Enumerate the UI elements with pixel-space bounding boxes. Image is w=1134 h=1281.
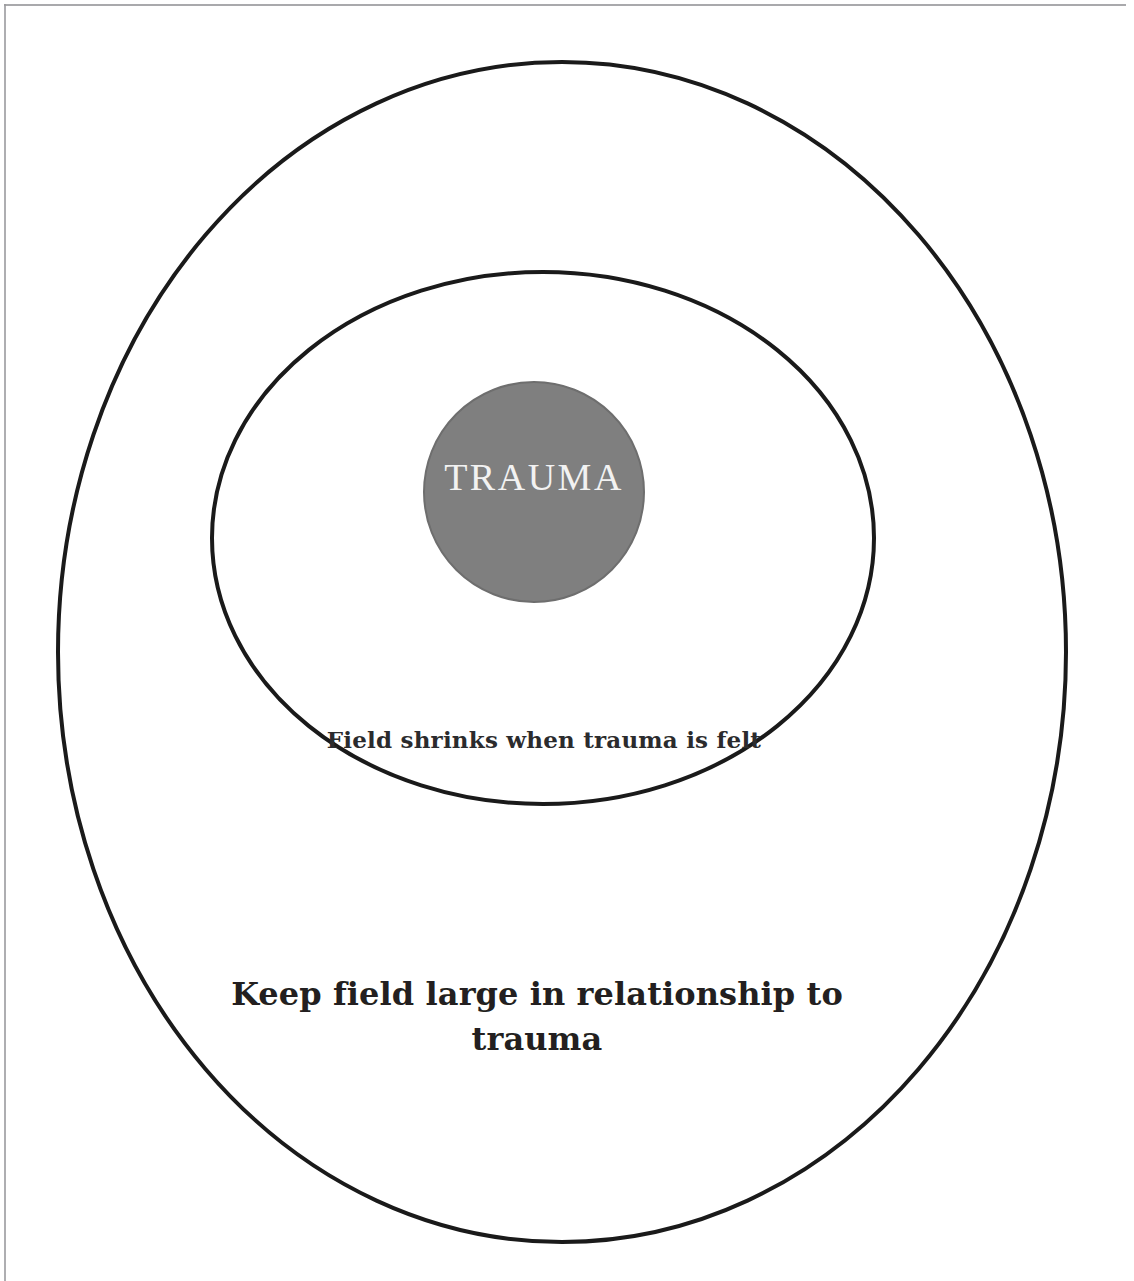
trauma-label: TRAUMA xyxy=(424,455,644,499)
field-shrinks-label: Field shrinks when trauma is felt xyxy=(234,726,854,753)
outer-field-ellipse xyxy=(58,62,1066,1242)
keep-field-large-label: Keep field large in relationship to trau… xyxy=(217,972,857,1062)
page-canvas: TRAUMA Field shrinks when trauma is felt… xyxy=(0,0,1134,1281)
concentric-circles-diagram: TRAUMA Field shrinks when trauma is felt… xyxy=(0,0,1134,1281)
diagram-svg xyxy=(0,0,1134,1281)
